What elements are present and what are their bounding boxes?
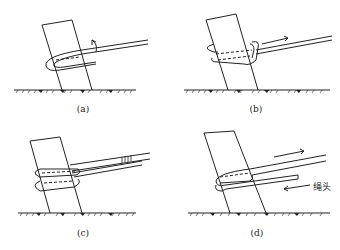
caption-b: (b) bbox=[236, 104, 276, 114]
caption-c: (c) bbox=[63, 228, 103, 238]
caption-a: (a) bbox=[63, 104, 103, 114]
panel-a: (a) bbox=[0, 0, 170, 125]
caption-d: (d) bbox=[237, 228, 277, 238]
panel-d: 绳头 (d) bbox=[170, 125, 340, 250]
panel-b: (b) bbox=[170, 0, 340, 125]
panel-c: (c) bbox=[0, 125, 170, 250]
rope-end-label: 绳头 bbox=[313, 180, 331, 193]
